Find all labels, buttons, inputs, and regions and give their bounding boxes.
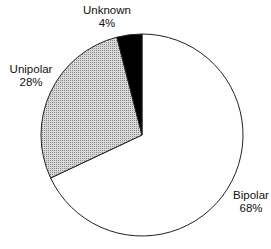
pie-chart: Bipolar68%Unipolar28%Unknown4% — [0, 0, 271, 249]
label-unknown: Unknown4% — [83, 4, 131, 29]
pie-slices — [41, 34, 243, 236]
label-bipolar: Bipolar68% — [233, 189, 269, 214]
label-unipolar: Unipolar28% — [10, 63, 53, 88]
